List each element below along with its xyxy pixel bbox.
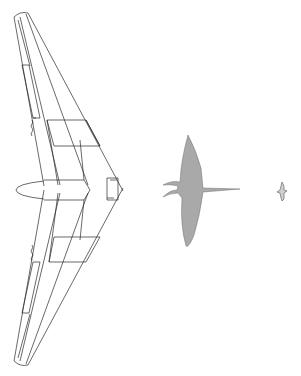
lower-wing-outline <box>14 188 123 366</box>
tail-box <box>107 178 118 200</box>
bird-body <box>277 182 287 201</box>
figure-canvas <box>0 0 301 376</box>
upper-panels <box>22 65 100 185</box>
center-body <box>44 140 90 240</box>
upper-wing-slot <box>31 120 33 136</box>
upper-wing-outline <box>14 13 123 192</box>
comparison-figure <box>0 0 301 376</box>
pterosaur-silhouette <box>163 135 240 246</box>
flying-wing-aircraft <box>14 13 123 366</box>
pterosaur-body <box>163 135 240 246</box>
nose-pod <box>16 181 44 199</box>
bird-silhouette <box>277 182 287 201</box>
